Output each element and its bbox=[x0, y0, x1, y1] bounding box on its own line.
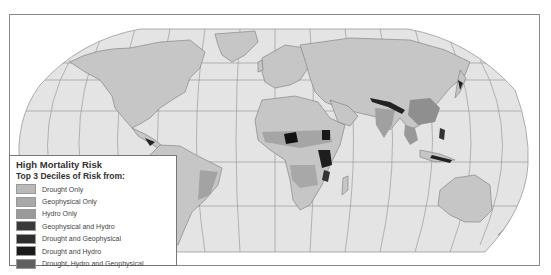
legend-item: Drought and Geophysical bbox=[16, 233, 172, 245]
legend-label: Drought and Hydro bbox=[42, 248, 101, 255]
legend-item: Geophysical and Hydro bbox=[16, 220, 172, 232]
legend-label: Drought Only bbox=[42, 186, 83, 193]
legend-item: Drought and Hydro bbox=[16, 245, 172, 257]
legend-label: Drought, Hydro and Geophysical bbox=[42, 260, 144, 267]
legend-label: Geophysical Only bbox=[42, 198, 97, 205]
legend-item: Drought Only bbox=[16, 183, 172, 195]
legend-swatch bbox=[16, 197, 36, 207]
legend-swatch bbox=[16, 221, 36, 231]
legend-swatch bbox=[16, 209, 36, 219]
legend-swatch bbox=[16, 259, 36, 269]
legend-swatch bbox=[16, 246, 36, 256]
legend-swatch bbox=[16, 234, 36, 244]
legend-item: Hydro Only bbox=[16, 208, 172, 220]
legend-item: Drought, Hydro and Geophysical bbox=[16, 257, 172, 269]
legend: High Mortality Risk Top 3 Deciles of Ris… bbox=[9, 155, 177, 266]
legend-title: High Mortality Risk bbox=[16, 159, 172, 170]
legend-item: Geophysical Only bbox=[16, 195, 172, 207]
legend-label: Drought and Geophysical bbox=[42, 235, 121, 242]
legend-subtitle: Top 3 Deciles of Risk from: bbox=[16, 170, 172, 182]
legend-label: Geophysical and Hydro bbox=[42, 223, 115, 230]
legend-swatch bbox=[16, 184, 36, 194]
uk bbox=[258, 60, 263, 72]
legend-label: Hydro Only bbox=[42, 210, 77, 217]
